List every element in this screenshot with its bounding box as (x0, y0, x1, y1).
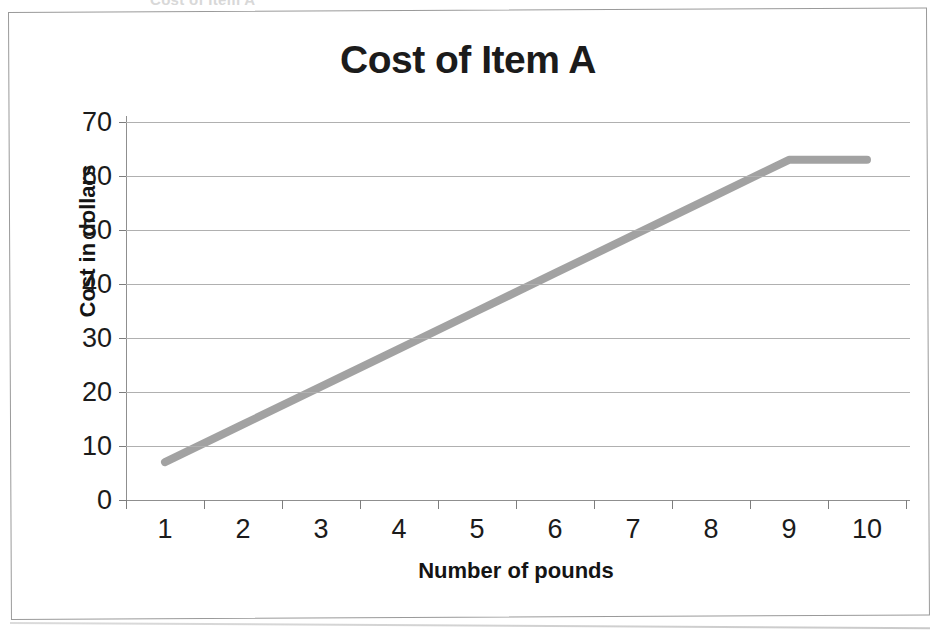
x-axis-label: 8 (703, 514, 718, 545)
y-axis-label: 50 (52, 215, 112, 246)
y-axis-tick (119, 500, 126, 501)
y-axis-tick (119, 284, 126, 285)
x-axis-tick (126, 500, 127, 509)
chart-title: Cost of Item A (0, 38, 936, 82)
y-gridline (126, 230, 910, 231)
y-axis-label: 0 (52, 485, 112, 516)
y-axis-tick (119, 392, 126, 393)
y-axis-label: 70 (52, 107, 112, 138)
x-axis-tick (516, 500, 517, 509)
plot-area: 01020304050607012345678910 (126, 122, 906, 500)
y-gridline (126, 284, 910, 285)
x-axis-tick (594, 500, 595, 509)
y-gridline (126, 392, 910, 393)
x-axis-tick (204, 500, 205, 509)
x-axis-tick (672, 500, 673, 509)
x-axis-tick (360, 500, 361, 509)
x-axis-label: 2 (235, 514, 250, 545)
y-axis-tick (119, 338, 126, 339)
y-gridline (126, 176, 910, 177)
x-axis-tick (828, 500, 829, 509)
x-axis-label: 7 (625, 514, 640, 545)
data-series-line (126, 122, 906, 500)
x-axis-label: 1 (157, 514, 172, 545)
x-axis-tick (282, 500, 283, 509)
x-axis-tick (906, 500, 907, 509)
y-gridline (126, 338, 910, 339)
x-axis-title: Number of pounds (126, 558, 906, 584)
x-axis-tick (438, 500, 439, 509)
x-axis-label: 9 (781, 514, 796, 545)
y-gridline (126, 122, 910, 123)
x-axis-label: 3 (313, 514, 328, 545)
y-axis-label: 30 (52, 323, 112, 354)
x-axis-label: 5 (469, 514, 484, 545)
y-axis-tick (119, 176, 126, 177)
y-axis-label: 20 (52, 377, 112, 408)
line-chart: Cost of Item A Cost in dollars Number of… (0, 0, 936, 637)
y-axis-label: 10 (52, 431, 112, 462)
x-axis-label: 10 (852, 514, 882, 545)
y-axis-tick (119, 446, 126, 447)
y-gridline (126, 500, 910, 501)
x-axis-label: 6 (547, 514, 562, 545)
scanned-chart-page: Cost of Item A Cost of Item A Cost in do… (0, 0, 936, 637)
y-axis-tick (119, 230, 126, 231)
x-axis-label: 4 (391, 514, 406, 545)
series-polyline (165, 160, 867, 462)
y-axis-tick (119, 122, 126, 123)
y-axis-label: 40 (52, 269, 112, 300)
x-axis-tick (750, 500, 751, 509)
y-axis-label: 60 (52, 161, 112, 192)
y-gridline (126, 446, 910, 447)
